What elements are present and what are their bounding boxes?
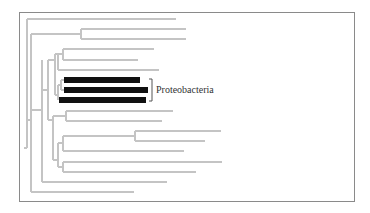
gray-branches xyxy=(24,19,222,192)
proteobacteria-leaf-3 xyxy=(59,97,146,103)
clade-bracket-icon xyxy=(149,79,152,101)
proteobacteria-clade xyxy=(59,77,148,103)
proteobacteria-leaf-1 xyxy=(64,77,140,83)
phylogenetic-tree xyxy=(0,0,370,213)
proteobacteria-leaf-2 xyxy=(64,87,148,93)
clade-label: Proteobacteria xyxy=(156,84,214,95)
